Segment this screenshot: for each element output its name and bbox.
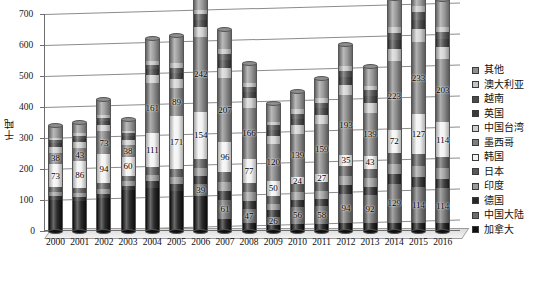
bar-segment	[436, 39, 449, 47]
bar-segment	[388, 49, 401, 61]
bar-column[interactable]: 1611112004	[145, 39, 160, 231]
cylinder-shading	[339, 85, 352, 96]
bar-segment	[170, 36, 183, 64]
cylinder-shading	[194, 27, 207, 37]
bar-segment	[146, 75, 159, 83]
y-tick-label: 600	[19, 41, 33, 50]
cylinder-shading	[412, 177, 425, 188]
legend-swatch-icon	[472, 67, 479, 74]
legend-label: 其他	[484, 65, 504, 75]
bar-segment: 39	[194, 184, 207, 196]
bar-segment	[194, 159, 207, 168]
bar-stack: 1392456	[290, 92, 305, 232]
cylinder-shading	[73, 201, 86, 231]
bar-segment: 27	[315, 174, 328, 182]
cylinder-shading	[388, 174, 401, 183]
data-label: 233	[412, 74, 426, 83]
legend-item-11[interactable]: 加拿大	[472, 223, 547, 238]
bar-column[interactable]: 223721292014	[387, 0, 402, 231]
legend-item-0[interactable]: 其他	[472, 63, 547, 78]
bar-segment	[170, 191, 183, 231]
legend-item-10[interactable]: 中国大陆	[472, 208, 547, 223]
cylinder-shading	[194, 20, 207, 27]
bar-segment	[218, 182, 231, 191]
bar-column[interactable]: 43862001	[72, 123, 87, 232]
bar-segment	[49, 200, 62, 231]
bar-column[interactable]: 13943922013	[363, 67, 378, 231]
bar-segment: 50	[267, 181, 280, 197]
cylinder-shading	[218, 182, 231, 191]
bar-stack: 1205026	[266, 104, 281, 231]
legend-label: 加拿大	[484, 225, 514, 235]
bar-column[interactable]: 19335942012	[338, 45, 353, 231]
bar-column[interactable]: 242154392006	[193, 0, 208, 231]
bar-segment: 127	[412, 114, 425, 153]
bar-segment: 77	[243, 159, 256, 183]
cylinder-shading	[170, 36, 183, 64]
cylinder-shading	[412, 166, 425, 177]
bar-segment: 223	[388, 61, 401, 130]
legend-item-1[interactable]: 澳大利亚	[472, 78, 547, 93]
bar-segment	[243, 192, 256, 201]
cylinder-shading	[146, 188, 159, 231]
cylinder-base	[290, 229, 305, 234]
legend-item-6[interactable]: 韩国	[472, 150, 547, 165]
data-label: 161	[146, 103, 160, 112]
data-label: 43	[366, 158, 375, 167]
cylinder-shading	[436, 39, 449, 47]
bar-segment	[291, 184, 304, 192]
legend-swatch-icon	[472, 226, 479, 233]
legend-item-5[interactable]: 墨西哥	[472, 136, 547, 151]
bar-column[interactable]: 891712005	[169, 36, 184, 231]
bar-column[interactable]: 2331271142015	[411, 0, 426, 231]
legend-item-3[interactable]: 英国	[472, 107, 547, 122]
bar-column[interactable]: 2031141142016	[435, 0, 450, 231]
bar-segment	[436, 47, 449, 59]
data-label: 139	[291, 151, 305, 160]
data-label: 171	[170, 138, 184, 147]
legend-item-7[interactable]: 日本	[472, 165, 547, 180]
cylinder-cap	[169, 33, 184, 38]
bar-segment: 139	[291, 134, 304, 177]
cylinder-shading	[364, 96, 377, 103]
cylinder-cap	[314, 76, 329, 81]
y-axis-title: 千吨	[2, 118, 17, 140]
bar-segment	[315, 79, 328, 98]
legend-item-8[interactable]: 印度	[472, 179, 547, 194]
bar-segment	[315, 115, 328, 124]
bar-column[interactable]: 16677472008	[242, 64, 257, 231]
data-label: 56	[293, 211, 302, 220]
legend-label: 越南	[484, 94, 504, 104]
bar-segment	[364, 187, 377, 195]
bar-column[interactable]: 38732000	[48, 126, 63, 231]
cylinder-shading	[315, 108, 328, 115]
bar-stack: 1667747	[242, 64, 257, 231]
legend-item-2[interactable]: 越南	[472, 92, 547, 107]
bar-segment	[388, 33, 401, 40]
bar-segment	[364, 103, 377, 113]
bar-column[interactable]: 73942002	[96, 100, 111, 231]
bar-segment: 47	[243, 209, 256, 224]
bar-column[interactable]: 12050262009	[266, 104, 281, 231]
data-label: 58	[317, 211, 326, 220]
cylinder-shading	[291, 192, 304, 199]
bar-column[interactable]: 38602003	[121, 120, 136, 231]
bar-segment	[194, 0, 207, 10]
legend-item-4[interactable]: 中国台湾	[472, 121, 547, 136]
bar-column[interactable]: 13924562010	[290, 92, 305, 232]
bar-segment: 203	[436, 59, 449, 122]
cylinder-cap	[72, 120, 87, 125]
bar-segment: 73	[97, 131, 110, 154]
bar-column[interactable]: 15927582011	[314, 79, 329, 231]
bar-segment: 72	[388, 130, 401, 152]
cylinder-shading	[194, 168, 207, 176]
bar-segment	[412, 29, 425, 42]
bar-segment	[218, 68, 231, 79]
bar-column[interactable]: 20796612007	[217, 30, 232, 232]
bar-stack: 22372129	[387, 0, 402, 231]
legend-item-9[interactable]: 德国	[472, 194, 547, 209]
cylinder-shading	[243, 98, 256, 107]
legend-swatch-icon	[472, 139, 479, 146]
cylinder-shading	[436, 0, 449, 26]
cylinder-cap	[266, 101, 281, 106]
